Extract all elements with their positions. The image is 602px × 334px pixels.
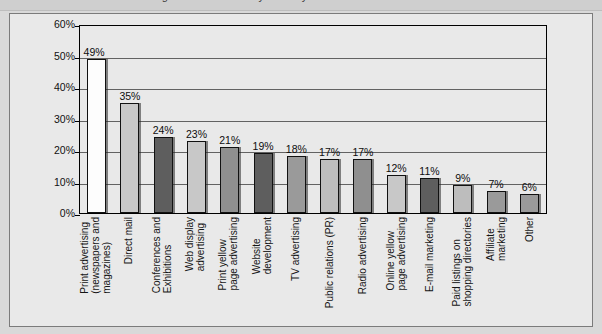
bar-slot: 7% <box>479 26 512 213</box>
x-axis-category-slot: Radio advertising <box>345 215 378 327</box>
bar-value-label: 21% <box>219 134 240 146</box>
cut-off-title-text: Marketing channels currently used by sma… <box>118 0 463 2</box>
x-axis-category-label: Web display advertising <box>184 217 206 271</box>
cut-off-title-strip: Marketing channels currently used by sma… <box>0 0 602 11</box>
bar-value-label: 24% <box>153 124 174 136</box>
bar-value-label: 12% <box>386 162 407 174</box>
bar-slot: 24% <box>147 26 180 213</box>
y-axis-tick-label: 50% <box>14 50 75 62</box>
x-axis-category-label: Radio advertising <box>357 217 368 294</box>
bar-slot: 35% <box>113 26 146 213</box>
bar: 21% <box>220 147 239 213</box>
bar: 11% <box>420 178 439 213</box>
x-axis-category-slot: Web display advertising <box>178 215 211 327</box>
x-axis-category-label: Online yellow page advertising <box>385 217 407 290</box>
y-axis-tick-label: 60% <box>14 18 75 30</box>
x-axis-category-slot: Print yellow page advertising <box>212 215 245 327</box>
y-axis-tick-label: 40% <box>14 81 75 93</box>
plot-area: 49%35%24%23%21%19%18%17%17%12%11%9%7%6% <box>79 25 547 214</box>
y-axis-tick-label: 10% <box>14 176 75 188</box>
bar: 24% <box>154 137 173 213</box>
y-axis-tick-label: 0% <box>14 207 75 219</box>
bar: 17% <box>320 159 339 213</box>
x-axis-category-slot: Direct mail <box>111 215 144 327</box>
bar-value-label: 19% <box>253 140 274 152</box>
bar: 18% <box>287 156 306 213</box>
bar-value-label: 18% <box>286 143 307 155</box>
bar-slot: 19% <box>246 26 279 213</box>
bar: 7% <box>487 191 506 213</box>
x-axis-category-slot: Print advertising (newspapers and magazi… <box>78 215 111 327</box>
bar-value-label: 7% <box>488 178 503 190</box>
bar-slot: 12% <box>380 26 413 213</box>
x-axis-category-label: Affiliate marketing <box>485 217 507 261</box>
bar: 23% <box>187 141 206 213</box>
y-axis-labels: 0%10%20%30%40%50%60% <box>9 13 75 223</box>
x-axis-category-label: E-mail marketing <box>423 217 434 292</box>
x-axis-category-label: Public relations (PR) <box>323 217 334 308</box>
bar-value-label: 9% <box>455 172 470 184</box>
bar-slot: 17% <box>313 26 346 213</box>
bar-slot: 21% <box>213 26 246 213</box>
x-axis-category-slot: Paid listings on shopping directories <box>446 215 479 327</box>
x-axis-category-slot: Affiliate marketing <box>479 215 512 327</box>
bar-value-label: 11% <box>419 165 439 177</box>
bar: 6% <box>520 194 539 213</box>
x-axis-category-label: Website development <box>251 217 273 274</box>
x-axis-category-label: Conferences and Exhibitions <box>151 217 173 293</box>
x-axis-category-slot: Public relations (PR) <box>312 215 345 327</box>
bar-value-label: 17% <box>319 146 340 158</box>
bar-slot: 18% <box>280 26 313 213</box>
y-axis-tick-label: 20% <box>14 144 75 156</box>
bar-slot: 6% <box>513 26 546 213</box>
x-axis-category-labels: Print advertising (newspapers and magazi… <box>78 215 546 327</box>
x-axis-category-slot: Online yellow page advertising <box>379 215 412 327</box>
bar-slot: 17% <box>346 26 379 213</box>
x-axis-category-slot: E-mail marketing <box>412 215 445 327</box>
bar-value-label: 35% <box>119 90 140 102</box>
x-axis-category-slot: Website development <box>245 215 278 327</box>
bar-slot: 9% <box>446 26 479 213</box>
x-axis-category-label: Print advertising (newspapers and magazi… <box>78 217 111 294</box>
bar: 49% <box>87 59 106 213</box>
x-axis-category-label: Direct mail <box>123 217 134 264</box>
x-axis-category-label: Print yellow page advertising <box>217 217 239 290</box>
bar-slot: 23% <box>180 26 213 213</box>
bar: 19% <box>254 153 273 213</box>
x-axis-category-slot: Other <box>512 215 545 327</box>
bar-slot: 49% <box>80 26 113 213</box>
x-axis-category-label: Other <box>524 217 535 242</box>
bar-value-label: 23% <box>186 128 207 140</box>
x-axis-category-slot: Conferences and Exhibitions <box>145 215 178 327</box>
x-axis-category-label: Paid listings on shopping directories <box>451 217 473 307</box>
bar-value-label: 6% <box>522 181 537 193</box>
bar-value-label: 49% <box>84 46 105 58</box>
bar-value-label: 17% <box>352 146 373 158</box>
bar: 35% <box>120 103 139 213</box>
y-axis-tick-label: 30% <box>14 113 75 125</box>
bar-slot: 11% <box>413 26 446 213</box>
bar-series: 49%35%24%23%21%19%18%17%17%12%11%9%7%6% <box>80 26 546 213</box>
bar: 17% <box>353 159 372 213</box>
bar: 9% <box>453 185 472 213</box>
x-axis-category-slot: TV advertising <box>279 215 312 327</box>
x-axis-category-label: TV advertising <box>290 217 301 281</box>
bar: 12% <box>387 175 406 213</box>
